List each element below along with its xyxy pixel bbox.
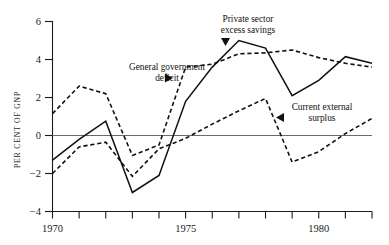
annotation-ces-line1: Current external — [292, 102, 353, 112]
annotations-group: General government deficit Private secto… — [129, 14, 353, 123]
x-axis-ticks — [53, 212, 373, 219]
annotation-ggd-line1: General government — [129, 62, 206, 72]
annotation-current-external-surplus: Current external surplus — [276, 102, 353, 123]
annotation-pses-line2: excess savings — [221, 25, 276, 35]
chart-container: PER CENT OF GNP 6 4 2 0 −2 −4 19701975 — [0, 0, 389, 245]
y-tick-2: 2 — [36, 92, 41, 103]
triangle-down-icon — [221, 38, 230, 46]
annotation-pses-line1: Private sector — [223, 14, 275, 24]
y-tick-neg2: −2 — [30, 168, 41, 179]
y-axis-title: PER CENT OF GNP — [13, 91, 22, 168]
y-tick-neg4: −4 — [30, 206, 42, 217]
y-axis-ticks — [45, 22, 53, 212]
annotation-ces-line2: surplus — [309, 113, 336, 123]
annotation-private-sector-excess-savings: Private sector excess savings — [221, 14, 276, 46]
x-tick-label-1980: 1980 — [308, 223, 329, 234]
triangle-left-icon — [276, 113, 284, 122]
x-tick-label-1975: 1975 — [175, 223, 196, 234]
y-tick-0: 0 — [36, 130, 41, 141]
x-tick-label-1970: 1970 — [42, 223, 63, 234]
x-axis-tick-labels: 197019751980 — [42, 223, 329, 234]
y-tick-4: 4 — [36, 54, 42, 65]
annotation-general-government-deficit: General government deficit — [129, 62, 206, 83]
y-axis-tick-labels: 6 4 2 0 −2 −4 — [30, 16, 42, 217]
line-chart: PER CENT OF GNP 6 4 2 0 −2 −4 19701975 — [0, 0, 389, 245]
y-tick-6: 6 — [36, 16, 41, 27]
